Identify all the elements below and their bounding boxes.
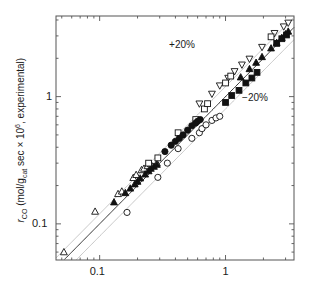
marker-open-square [205, 101, 211, 107]
marker-filled-square [284, 32, 290, 38]
marker-filled-up-triangle [237, 74, 244, 80]
marker-open-circle [164, 160, 170, 166]
y-label-tail: , experimental) [15, 58, 26, 124]
series-open-circle [124, 113, 223, 215]
annotation-minus-20-percent: −20% [242, 92, 268, 103]
marker-open-down-triangle [209, 91, 216, 97]
y-label-symbol: r [15, 219, 26, 222]
plot-canvas [0, 0, 310, 294]
marker-open-down-triangle [280, 24, 287, 30]
series-filled-circle [162, 116, 204, 154]
marker-open-down-triangle [246, 56, 253, 62]
marker-open-square [228, 73, 234, 79]
x-tick-label-1: 1 [223, 265, 229, 277]
marker-open-circle [217, 113, 223, 119]
marker-open-circle [124, 209, 130, 215]
marker-filled-square [236, 87, 242, 93]
marker-open-circle [203, 122, 209, 128]
marker-open-up-triangle [60, 248, 67, 254]
marker-filled-square [249, 75, 255, 81]
y-tick-label-0.1: 0.1 [32, 217, 47, 229]
y-axis-label: rCO (mol/gcat sec × 106, experimental) [14, 22, 28, 258]
marker-open-circle [175, 146, 181, 152]
marker-filled-up-triangle [246, 65, 253, 71]
y-label-sup-exp: 6 [14, 124, 21, 128]
y-label-sub-cat: cat [21, 169, 28, 178]
marker-open-square [146, 160, 152, 166]
reference-line-plus20 [56, 17, 294, 258]
y-label-sub-co: CO [21, 209, 28, 220]
marker-open-square [223, 80, 229, 86]
marker-filled-square [254, 69, 260, 75]
marker-open-square [155, 155, 161, 161]
y-label-mid2: sec × 10 [15, 128, 26, 169]
marker-open-up-triangle [92, 208, 99, 214]
marker-filled-up-triangle [259, 53, 266, 59]
x-tick-label-0.1: 0.1 [90, 265, 105, 277]
reference-line-minus20 [76, 40, 294, 260]
data-markers [60, 20, 291, 255]
annotation-plus-20-percent: +20% [169, 39, 195, 50]
marker-filled-square [229, 93, 235, 99]
y-tick-label-1: 1 [46, 90, 52, 102]
marker-open-circle [189, 135, 195, 141]
marker-open-circle [155, 174, 161, 180]
marker-open-square [268, 34, 274, 40]
marker-filled-square [223, 100, 229, 106]
figure-parity-plot: rCO (mol/gcat sec × 106, experimental) 0… [0, 0, 310, 294]
marker-filled-square [243, 80, 249, 86]
y-label-mid: (mol/g [15, 178, 26, 209]
reference-line-parity [64, 27, 294, 259]
marker-filled-circle [197, 116, 203, 122]
marker-open-down-triangle [216, 83, 223, 89]
marker-filled-circle [162, 148, 168, 154]
